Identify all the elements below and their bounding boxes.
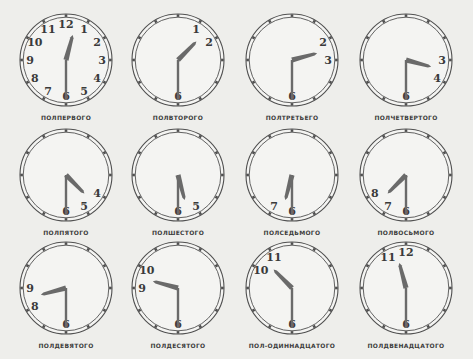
clock-face: 121234567891011 (20, 14, 112, 106)
hour-numeral: 9 (138, 282, 146, 295)
hour-numeral: 2 (93, 36, 101, 49)
hour-tick (449, 174, 452, 177)
clock-face: 67 (246, 129, 338, 221)
hour-numeral: 7 (270, 200, 278, 213)
hour-tick (360, 287, 363, 290)
hour-tick (405, 129, 408, 132)
hour-tick (246, 174, 249, 177)
hour-tick (65, 103, 68, 106)
clock-caption: ПОЛ-ОДИННАДЦАТОГО (232, 342, 352, 349)
clock-face: 61011 (246, 242, 338, 334)
hour-tick (246, 59, 249, 62)
hour-numeral: 3 (438, 54, 446, 67)
clock-face: 346 (360, 14, 452, 106)
hour-tick (291, 14, 294, 17)
hour-numeral: 7 (384, 200, 392, 213)
hour-tick (65, 331, 68, 334)
hour-tick (246, 287, 249, 290)
hour-tick (20, 174, 23, 177)
hour-tick (177, 14, 180, 17)
hour-numeral: 4 (93, 72, 101, 85)
hour-numeral: 10 (139, 264, 155, 277)
hour-numeral: 5 (80, 85, 88, 98)
hour-tick (335, 287, 338, 290)
hour-numeral: 2 (319, 36, 327, 49)
clock-caption: ПОЛШЕСТОГО (118, 229, 238, 236)
clock-caption: ПОЛВТОРОГО (118, 114, 238, 121)
hour-tick (449, 287, 452, 290)
hour-numeral: 2 (205, 36, 213, 49)
hour-tick (177, 103, 180, 106)
hour-tick (405, 331, 408, 334)
clock-caption: ПОЛДВЕНАДЦАТОГО (346, 342, 466, 349)
hour-tick (177, 242, 180, 245)
hour-numeral: 9 (26, 54, 34, 67)
hour-tick (360, 174, 363, 177)
hour-tick (65, 218, 68, 221)
hour-tick (20, 59, 23, 62)
hour-tick (177, 129, 180, 132)
hour-numeral: 12 (58, 18, 73, 31)
hour-numeral: 5 (192, 200, 200, 213)
clock-caption: ПОЛДЕВЯТОГО (6, 342, 126, 349)
hour-tick (177, 218, 180, 221)
clock-face: 689 (20, 242, 112, 334)
hour-tick (109, 174, 112, 177)
clock-diagram: 1212345678910111262363464565667678689691… (0, 0, 473, 359)
hour-numeral: 1 (80, 23, 88, 36)
hour-tick (177, 331, 180, 334)
clock-caption: ПОЛВОСЬМОГО (346, 229, 466, 236)
hour-tick (65, 14, 68, 17)
hour-tick (20, 287, 23, 290)
hour-numeral: 8 (371, 187, 379, 200)
hour-numeral: 3 (98, 54, 106, 67)
clock-face: 126 (132, 14, 224, 106)
clock-face: 236 (246, 14, 338, 106)
hour-tick (132, 174, 135, 177)
hour-numeral: 7 (44, 85, 52, 98)
hour-numeral: 3 (324, 54, 332, 67)
hour-tick (405, 14, 408, 17)
hour-tick (291, 218, 294, 221)
hour-tick (291, 129, 294, 132)
hour-tick (291, 331, 294, 334)
hour-tick (405, 218, 408, 221)
hour-tick (291, 242, 294, 245)
hour-tick (335, 174, 338, 177)
clock-caption: ПОЛЧЕТВЕРТОГО (346, 114, 466, 121)
hour-tick (335, 59, 338, 62)
clock-caption: ПОЛТРЕТЬЕГО (232, 114, 352, 121)
clock-face: 6910 (132, 242, 224, 334)
clock-face: 56 (132, 129, 224, 221)
hour-numeral: 4 (93, 187, 101, 200)
hour-numeral: 11 (380, 251, 395, 264)
hour-tick (109, 287, 112, 290)
hour-numeral: 10 (253, 264, 269, 277)
hour-numeral: 4 (433, 72, 441, 85)
hour-tick (221, 287, 224, 290)
clock-caption: ПОЛДЕСЯТОГО (118, 342, 238, 349)
hour-numeral: 8 (31, 300, 39, 313)
hour-numeral: 8 (31, 72, 39, 85)
hour-tick (109, 59, 112, 62)
hour-tick (65, 242, 68, 245)
clock-face: 61112 (360, 242, 452, 334)
hour-tick (132, 287, 135, 290)
clock-caption: ПОЛПЯТОГО (6, 229, 126, 236)
hour-numeral: 12 (398, 246, 413, 259)
hour-tick (405, 103, 408, 106)
clock-face: 678 (360, 129, 452, 221)
hour-tick (221, 174, 224, 177)
hour-numeral: 10 (27, 36, 43, 49)
clock-caption: ПОЛПЕРВОГО (6, 114, 126, 121)
hour-tick (360, 59, 363, 62)
hour-tick (449, 59, 452, 62)
hour-tick (405, 242, 408, 245)
hour-tick (291, 103, 294, 106)
hour-tick (132, 59, 135, 62)
hour-numeral: 5 (80, 200, 88, 213)
hour-tick (65, 129, 68, 132)
hour-tick (221, 59, 224, 62)
clock-caption: ПОЛСЕДЬМОГО (232, 229, 352, 236)
hour-numeral: 1 (192, 23, 200, 36)
